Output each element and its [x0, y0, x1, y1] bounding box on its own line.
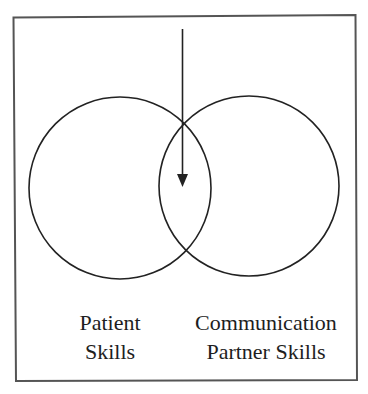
down-arrow-icon	[177, 29, 188, 187]
left-label-line2: Skills	[85, 339, 135, 364]
right-label-line1: Communication	[195, 310, 337, 335]
venn-diagram: Patient Skills Communication Partner Ski…	[0, 0, 368, 394]
right-label-line2: Partner Skills	[206, 339, 325, 364]
partner-skills-circle	[159, 96, 339, 276]
left-label-line1: Patient	[79, 310, 140, 335]
